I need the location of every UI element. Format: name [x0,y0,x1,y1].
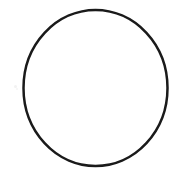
circle-outline [24,10,168,166]
circle-figure [0,0,183,175]
image-canvas [0,0,183,175]
